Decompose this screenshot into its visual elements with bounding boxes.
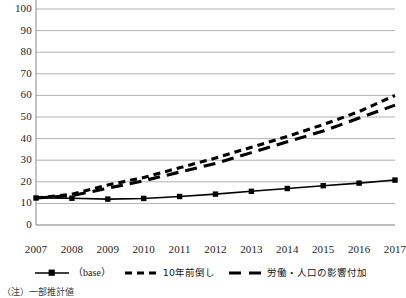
x-tick-label: 2009 <box>97 243 119 255</box>
y-tick-label: 80 <box>4 46 32 57</box>
x-tick-label: 2012 <box>204 243 226 255</box>
x-axis-tick-labels: 2007200820092010201120122013201420152016… <box>0 243 402 259</box>
y-axis-tick-labels: 0102030405060708090100 <box>2 0 32 250</box>
legend-item[interactable]: 10年前倒し <box>125 267 215 279</box>
x-tick-label: 2014 <box>276 243 298 255</box>
y-tick-label: 90 <box>4 25 32 36</box>
legend-label: （base） <box>73 267 111 279</box>
y-tick-label: 10 <box>4 197 32 208</box>
x-tick-label: 2015 <box>312 243 334 255</box>
y-tick-label: 50 <box>4 111 32 122</box>
x-tick-label: 2013 <box>240 243 262 255</box>
legend-item[interactable]: 労働・人口の影響付加 <box>229 267 367 279</box>
x-tick-label: 2010 <box>132 243 154 255</box>
y-tick-label: 30 <box>4 154 32 165</box>
x-tick-label: 2016 <box>348 243 370 255</box>
x-tick-label: 2017 <box>384 243 406 255</box>
legend-line-swatch <box>125 268 159 278</box>
y-tick-label: 0 <box>4 219 32 230</box>
series-lines <box>33 95 397 201</box>
x-tick-label: 2008 <box>61 243 83 255</box>
chart-footnote: （注）一部推計値 <box>2 287 242 298</box>
legend-label: 10年前倒し <box>163 267 215 279</box>
legend-label: 労働・人口の影響付加 <box>267 267 367 279</box>
y-tick-label: 100 <box>4 3 32 14</box>
legend-line-swatch <box>229 268 263 278</box>
chart-legend: （base）10年前倒し労働・人口の影響付加 <box>0 263 402 283</box>
y-tick-label: 40 <box>4 133 32 144</box>
chart-canvas <box>0 0 402 250</box>
plot-area: 0102030405060708090100 <box>0 0 402 250</box>
y-tick-label: 20 <box>4 176 32 187</box>
legend-line-swatch <box>35 268 69 278</box>
legend-item[interactable]: （base） <box>35 267 111 279</box>
x-tick-label: 2011 <box>169 243 191 255</box>
x-tick-label: 2007 <box>25 243 47 255</box>
y-tick-label: 70 <box>4 68 32 79</box>
y-tick-label: 60 <box>4 89 32 100</box>
